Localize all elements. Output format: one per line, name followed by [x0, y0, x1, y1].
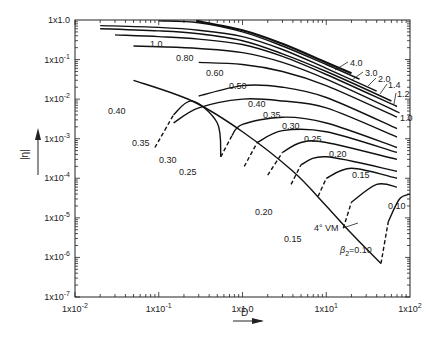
vm-annotation: 4° VM	[314, 223, 358, 233]
curve-0-35	[257, 129, 397, 152]
curve-label: 0.30	[282, 121, 300, 131]
y-tick-label: 1x10-5	[44, 211, 70, 223]
curve-0-10-dashed	[381, 222, 388, 264]
curve-label: 0.35	[263, 110, 281, 120]
curve-0-15	[352, 184, 398, 202]
curve-label: 1.0	[400, 113, 413, 123]
curve-0-25	[301, 157, 397, 172]
vm-label: 4° VM	[314, 223, 339, 233]
curve-label: 0.25	[304, 134, 322, 144]
curve-label: 0.60	[206, 68, 224, 78]
curve-0-40-left-lobe-	[174, 101, 221, 157]
curve-0-40-left-lobe--dashed	[155, 115, 174, 148]
curve-0-20-dashed	[318, 178, 326, 196]
y-tick-label: 1x10-3	[44, 132, 70, 144]
svg-text:β2=0.10: β2=0.10	[339, 245, 372, 257]
curve-0-50	[174, 99, 398, 137]
curve-label: 0.25	[179, 167, 197, 177]
y-tick-label: 1x1.0	[48, 15, 70, 25]
y-tick-label: 1x10-1	[44, 53, 70, 65]
chart: 1x1.01x10-11x10-21x10-31x10-41x10-51x10-…	[0, 0, 444, 337]
y-tick-labels: 1x1.01x10-11x10-21x10-31x10-41x10-51x10-…	[44, 15, 70, 302]
curve-label: 0.20	[329, 149, 347, 159]
curve-label: 1.0	[150, 39, 163, 49]
x-axis-label: D	[241, 307, 248, 318]
curve-label: 4.0	[350, 58, 363, 68]
y-axis-title: |η|	[19, 128, 41, 175]
curve-1-0	[134, 46, 400, 113]
curve-label: 0.35	[132, 138, 150, 148]
x-tick-label: 1x10-2	[62, 302, 88, 314]
arrow-up-icon	[35, 128, 41, 140]
beta-annotation: β2=0.10	[339, 245, 372, 257]
y-axis-label: |η|	[19, 149, 30, 160]
curve-label: 0.15	[352, 170, 370, 180]
curve-label: 0.20	[255, 207, 273, 217]
x-tick-label: 1x10-1	[146, 302, 172, 314]
curve-label: 0.10	[388, 201, 406, 211]
y-tick-label: 1x10-4	[44, 171, 70, 183]
curve-label: 1.2	[397, 89, 410, 99]
curve-label: 0.40	[108, 106, 126, 116]
y-tick-label: 1x10-7	[44, 290, 70, 302]
curve-label: 0.15	[284, 234, 302, 244]
y-tick-label: 1x10-2	[44, 92, 70, 104]
curve-label: 0.50	[229, 81, 247, 91]
curve-0-40-dashed	[221, 136, 232, 157]
curve-label: 3.0	[365, 68, 378, 78]
beta-value: =0.10	[349, 245, 372, 255]
x-tick-label: 1x101	[315, 302, 339, 314]
curve-label: 0.80	[176, 53, 194, 63]
curve-0-15-dashed	[343, 202, 351, 228]
y-tick-label: 1x10-6	[44, 250, 70, 262]
curve-label: 0.40	[248, 99, 266, 109]
curve-0-35-dashed	[244, 143, 257, 167]
x-tick-label: 1x102	[398, 302, 422, 314]
curve-label: 0.30	[159, 155, 177, 165]
arrow-right-icon	[252, 318, 264, 324]
